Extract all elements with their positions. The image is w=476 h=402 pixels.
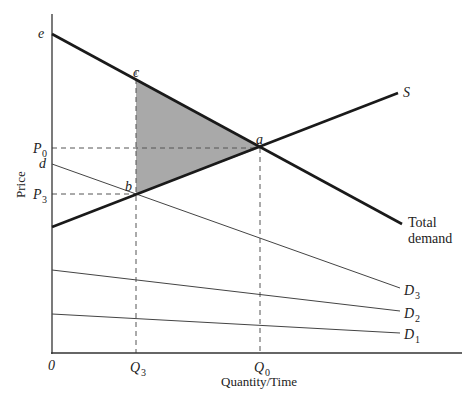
label-supply: S <box>403 85 410 100</box>
x-axis-title: Quantity/Time <box>221 374 297 389</box>
svg-text:2: 2 <box>415 313 420 324</box>
y-axis-title: Price <box>13 171 28 198</box>
supply-demand-diagram: e c a b d S Total demand D 3 D 2 D 1 P 0… <box>0 0 476 402</box>
label-d3: D 3 <box>403 283 420 301</box>
label-e: e <box>38 26 44 41</box>
svg-text:P: P <box>32 141 42 156</box>
demand-curve-d1 <box>52 314 400 333</box>
svg-text:3: 3 <box>42 194 47 205</box>
svg-text:3: 3 <box>141 367 146 378</box>
total-demand-curve <box>52 34 402 224</box>
label-d2: D 2 <box>403 306 420 324</box>
demand-curve-d3 <box>52 164 400 288</box>
tick-label-p3: P 3 <box>32 187 47 205</box>
svg-text:D: D <box>403 283 414 298</box>
label-b: b <box>125 179 132 194</box>
supply-curve <box>52 93 398 227</box>
tick-label-origin: 0 <box>48 358 55 373</box>
label-c: c <box>133 65 140 80</box>
svg-text:1: 1 <box>415 334 420 345</box>
svg-text:0: 0 <box>42 148 47 159</box>
label-total-demand-line2: demand <box>408 231 452 246</box>
svg-text:Q: Q <box>254 360 264 375</box>
svg-text:3: 3 <box>415 290 420 301</box>
tick-label-q3: Q 3 <box>130 360 146 378</box>
label-total-demand-line1: Total <box>408 215 437 230</box>
label-d1: D 1 <box>403 327 420 345</box>
svg-text:D: D <box>403 306 414 321</box>
svg-text:P: P <box>32 187 42 202</box>
svg-text:D: D <box>403 327 414 342</box>
svg-text:Q: Q <box>130 360 140 375</box>
label-a: a <box>256 132 263 147</box>
demand-curve-d2 <box>52 270 400 311</box>
